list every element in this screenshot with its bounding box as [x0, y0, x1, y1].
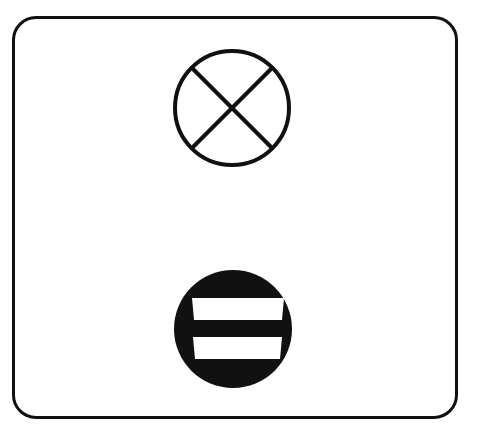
circle-double-bar-icon [172, 268, 294, 390]
circle-x-icon [170, 46, 294, 170]
